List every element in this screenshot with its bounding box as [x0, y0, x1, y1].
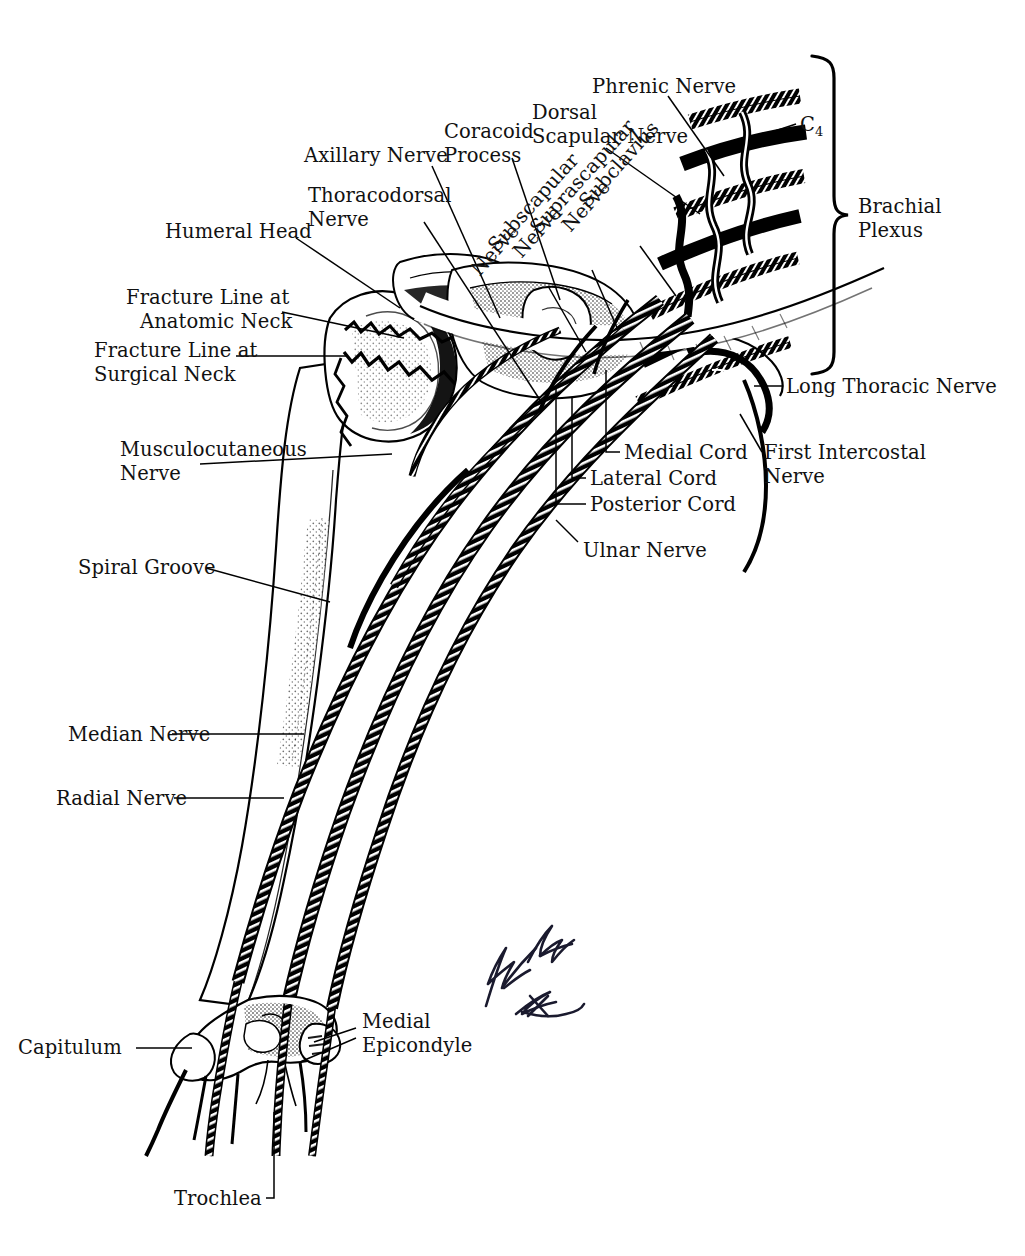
- label-fracture-surgical-neck-line2: Surgical Neck: [94, 362, 236, 387]
- label-humeral-head: Humeral Head: [165, 219, 312, 244]
- artist-signature: [486, 926, 584, 1016]
- label-brachial-plexus-line1: Brachial: [858, 194, 942, 219]
- distal-humerus-elbow: [146, 982, 340, 1156]
- label-posterior-cord: Posterior Cord: [590, 492, 736, 517]
- anatomical-illustration: [0, 0, 1025, 1256]
- label-c4-subscript: 4: [815, 124, 823, 139]
- label-fracture-surgical-neck-line1: Fracture Line at: [94, 338, 257, 363]
- label-axillary-nerve: Axillary Nerve: [304, 143, 448, 168]
- label-trochlea: Trochlea: [174, 1186, 262, 1211]
- label-medial-epicondyle-line2: Epicondyle: [362, 1033, 472, 1058]
- label-first-intercostal-nerve-line1: First Intercostal: [764, 440, 926, 465]
- label-musculocutaneous-nerve-line2: Nerve: [120, 461, 181, 486]
- label-c4-letter: C: [800, 113, 815, 136]
- figure-canvas: Phrenic Nerve Dorsal Scapular Nerve Cora…: [0, 0, 1025, 1256]
- label-thoracodorsal-nerve-line1: Thoracodorsal: [308, 183, 452, 208]
- label-medial-cord: Medial Cord: [624, 440, 748, 465]
- label-musculocutaneous-nerve-line1: Musculocutaneous: [120, 437, 307, 462]
- label-median-nerve: Median Nerve: [68, 722, 210, 747]
- label-radial-nerve: Radial Nerve: [56, 786, 187, 811]
- label-cervical-root-c4: C4: [800, 112, 823, 144]
- label-lateral-cord: Lateral Cord: [590, 466, 717, 491]
- label-coracoid-process-line1: Coracoid: [444, 119, 534, 144]
- label-dorsal-scapular-nerve-line1: Dorsal: [532, 100, 597, 125]
- label-first-intercostal-nerve-line2: Nerve: [764, 464, 825, 489]
- label-ulnar-nerve: Ulnar Nerve: [583, 538, 707, 563]
- label-spiral-groove: Spiral Groove: [78, 555, 216, 580]
- label-fracture-anatomic-neck-line2: Anatomic Neck: [140, 309, 292, 334]
- label-thoracodorsal-nerve-line2: Nerve: [308, 207, 369, 232]
- label-phrenic-nerve: Phrenic Nerve: [592, 74, 736, 99]
- label-brachial-plexus-line2: Plexus: [858, 218, 923, 243]
- label-medial-epicondyle-line1: Medial: [362, 1009, 431, 1034]
- label-coracoid-process-line2: Process: [444, 143, 521, 168]
- label-capitulum: Capitulum: [18, 1035, 122, 1060]
- label-long-thoracic-nerve: Long Thoracic Nerve: [786, 374, 997, 399]
- label-fracture-anatomic-neck-line1: Fracture Line at: [126, 285, 289, 310]
- brachial-plexus-brace: [812, 56, 848, 374]
